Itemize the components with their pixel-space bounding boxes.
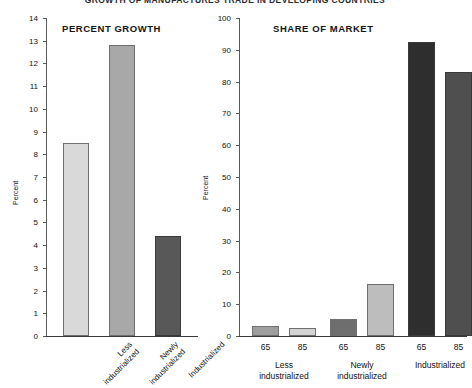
y-tick xyxy=(43,18,47,19)
y-tick xyxy=(43,313,47,314)
y-tick-label: 100 xyxy=(201,14,231,23)
y-tick-label: 4 xyxy=(10,241,38,250)
x-tick-label: 65 xyxy=(261,342,270,352)
y-tick xyxy=(236,241,240,242)
y-tick-label: 7 xyxy=(10,173,38,182)
y-tick xyxy=(43,222,47,223)
x-tick-label: 65 xyxy=(417,342,426,352)
y-tick-label: 11 xyxy=(10,82,38,91)
y-tick xyxy=(43,268,47,269)
bar xyxy=(289,328,316,336)
group-label: Newlyindustrialized xyxy=(337,360,387,381)
y-tick-label: 8 xyxy=(10,150,38,159)
percent-growth-x-axis xyxy=(46,336,198,337)
y-tick xyxy=(236,177,240,178)
share-of-market-y-axis xyxy=(239,18,240,336)
bar xyxy=(109,45,135,336)
y-tick xyxy=(236,82,240,83)
y-tick xyxy=(236,113,240,114)
y-tick-label: 80 xyxy=(201,77,231,86)
y-tick xyxy=(236,209,240,210)
y-tick xyxy=(43,154,47,155)
y-tick xyxy=(43,336,47,337)
y-tick xyxy=(43,41,47,42)
percent-growth-y-axis xyxy=(46,18,47,336)
group-label: Industrialized xyxy=(415,360,465,371)
x-tick-label: 85 xyxy=(376,342,385,352)
bar xyxy=(155,236,181,336)
y-tick-label: 50 xyxy=(201,173,231,182)
y-tick xyxy=(43,63,47,64)
percent-growth-title: PERCENT GROWTH xyxy=(62,23,161,34)
y-tick xyxy=(43,200,47,201)
y-tick xyxy=(236,145,240,146)
category-label: Lessindustrialized xyxy=(95,340,142,387)
y-tick-label: 0 xyxy=(10,332,38,341)
y-tick xyxy=(43,86,47,87)
y-tick xyxy=(43,109,47,110)
chart-percent-growth: PERCENT GROWTH Percent 01234567891011121… xyxy=(0,0,200,388)
share-of-market-x-axis xyxy=(239,336,467,337)
y-tick xyxy=(236,18,240,19)
y-tick-label: 2 xyxy=(10,286,38,295)
y-tick-label: 1 xyxy=(10,309,38,318)
y-tick-label: 30 xyxy=(201,236,231,245)
y-tick xyxy=(236,50,240,51)
bar xyxy=(63,143,89,336)
y-tick xyxy=(43,291,47,292)
y-tick xyxy=(236,272,240,273)
category-label: Newlyindustrialized xyxy=(141,340,188,387)
y-tick-label: 20 xyxy=(201,268,231,277)
x-tick-label: 65 xyxy=(339,342,348,352)
y-tick-label: 5 xyxy=(10,218,38,227)
bar xyxy=(408,42,435,336)
x-tick-label: 85 xyxy=(454,342,463,352)
y-tick xyxy=(43,245,47,246)
bar xyxy=(445,72,472,336)
y-tick xyxy=(43,177,47,178)
y-tick-label: 10 xyxy=(10,104,38,113)
y-tick xyxy=(43,132,47,133)
bar xyxy=(252,326,279,336)
y-tick-label: 10 xyxy=(201,300,231,309)
bar xyxy=(367,284,394,336)
chart-share-of-market: SHARE OF MARKET Percent 0102030405060708… xyxy=(200,0,470,388)
x-tick-label: 85 xyxy=(298,342,307,352)
y-tick-label: 90 xyxy=(201,45,231,54)
bar xyxy=(330,319,357,336)
y-tick-label: 60 xyxy=(201,141,231,150)
y-tick-label: 6 xyxy=(10,195,38,204)
y-tick-label: 13 xyxy=(10,36,38,45)
y-tick xyxy=(236,304,240,305)
y-tick xyxy=(236,336,240,337)
group-label: Lessindustrialized xyxy=(259,360,309,381)
y-tick-label: 14 xyxy=(10,14,38,23)
share-of-market-title: SHARE OF MARKET xyxy=(273,23,374,34)
y-tick-label: 9 xyxy=(10,127,38,136)
y-tick-label: 12 xyxy=(10,59,38,68)
y-tick-label: 3 xyxy=(10,263,38,272)
y-tick-label: 0 xyxy=(201,332,231,341)
y-tick-label: 70 xyxy=(201,109,231,118)
y-tick-label: 40 xyxy=(201,204,231,213)
